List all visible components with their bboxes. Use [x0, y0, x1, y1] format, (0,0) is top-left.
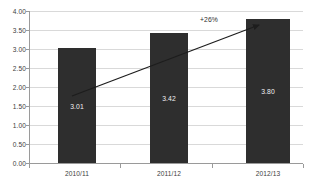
bar-chart: 4.00 3.50 3.00 2.50 2.00 1.50 1.00 0.50 …: [0, 0, 312, 189]
growth-annotation-label: +26%: [200, 16, 218, 24]
growth-arrow-icon: [0, 0, 312, 189]
